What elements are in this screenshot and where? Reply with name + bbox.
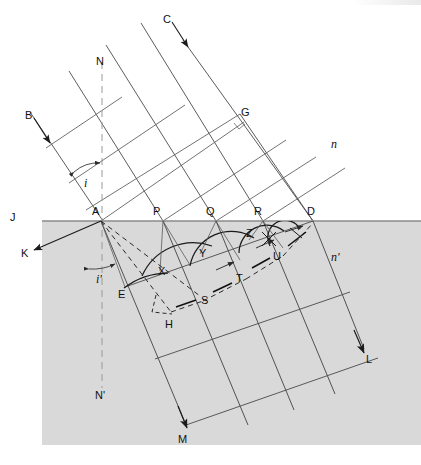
refractive-index-label-n-prime: n': [331, 251, 340, 263]
point-label-S: S: [201, 295, 208, 306]
angle-label-i: i: [84, 177, 87, 189]
diagram-canvas: [0, 0, 421, 465]
surface-label-J: J: [10, 212, 16, 223]
incident-rays: [30, 23, 313, 221]
ray-label-B: B: [25, 110, 32, 121]
point-label-T: T: [236, 273, 243, 284]
point-label-D: D: [307, 206, 315, 217]
wavefront-DG: [240, 114, 313, 221]
ray-B-arrow: [34, 118, 50, 143]
scan-edge-artifact: [351, 0, 421, 5]
ray-C-arrow: [172, 22, 188, 47]
point-label-Q: Q: [206, 206, 215, 217]
point-label-A: A: [92, 206, 99, 217]
ray-label-C: C: [163, 14, 171, 25]
point-label-Y: Y: [199, 248, 206, 259]
point-label-G: G: [241, 107, 250, 118]
point-label-U: U: [273, 251, 281, 262]
point-label-X: X: [158, 266, 165, 277]
refractive-index-label-n: n: [331, 138, 337, 150]
ray-label-M: M: [178, 434, 187, 445]
optics-diagram-figure: A P Q R D G X Y Z U T S E H N N' J K B C…: [0, 0, 421, 465]
point-label-E: E: [118, 289, 125, 300]
normal-label-N-prime: N': [95, 390, 105, 401]
point-label-H: H: [165, 319, 173, 330]
point-label-R: R: [254, 206, 262, 217]
point-label-Z: Z: [246, 228, 253, 239]
ray-label-K: K: [21, 248, 28, 259]
point-label-P: P: [153, 206, 160, 217]
normal-label-N: N: [96, 56, 104, 67]
ray-label-L: L: [366, 354, 372, 365]
angle-label-i-prime: i': [96, 273, 102, 285]
